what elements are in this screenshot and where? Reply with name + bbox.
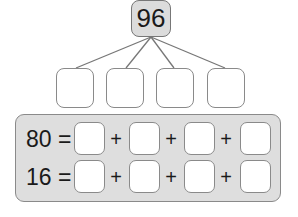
root-number: 96 — [137, 3, 166, 34]
plus-sign: + — [164, 162, 178, 192]
answer-box[interactable] — [129, 160, 160, 193]
plus-sign: + — [109, 124, 123, 154]
child-box-1[interactable] — [56, 68, 94, 108]
equation-total: 16 = — [26, 162, 71, 192]
answer-box[interactable] — [240, 160, 271, 193]
equations-panel: 80 = + + + 16 = + + + — [15, 114, 281, 202]
answer-box[interactable] — [129, 122, 160, 155]
plus-sign: + — [109, 162, 123, 192]
equation-total: 80 = — [26, 124, 71, 154]
plus-sign: + — [164, 124, 178, 154]
child-box-2[interactable] — [106, 68, 144, 108]
root-number-box: 96 — [131, 0, 171, 37]
answer-box[interactable] — [74, 160, 105, 193]
child-box-4[interactable] — [207, 68, 245, 108]
plus-sign: + — [219, 124, 233, 154]
equation-row-2: 16 = + + + — [16, 160, 280, 194]
plus-sign: + — [219, 162, 233, 192]
equation-row-1: 80 = + + + — [16, 122, 280, 156]
answer-box[interactable] — [184, 160, 215, 193]
child-box-3[interactable] — [156, 68, 194, 108]
answer-box[interactable] — [74, 122, 105, 155]
answer-box[interactable] — [240, 122, 271, 155]
answer-box[interactable] — [184, 122, 215, 155]
